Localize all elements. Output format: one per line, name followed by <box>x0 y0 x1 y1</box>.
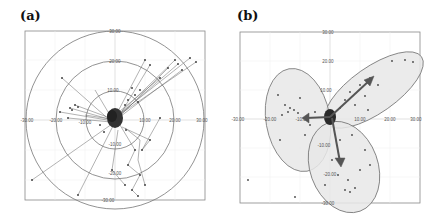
svg-text:-20.00: -20.00 <box>109 171 122 176</box>
svg-text:-10.00: -10.00 <box>79 120 92 125</box>
svg-text:-30.00: -30.00 <box>21 118 34 123</box>
svg-text:-20.00: -20.00 <box>50 118 63 123</box>
svg-text:-30.00: -30.00 <box>232 117 245 122</box>
svg-text:-20.00: -20.00 <box>324 172 337 177</box>
svg-text:10.00: 10.00 <box>107 88 119 93</box>
svg-text:20.00: 20.00 <box>169 118 181 123</box>
svg-text:-20.00: -20.00 <box>264 117 277 122</box>
svg-text:30.00: 30.00 <box>410 117 422 122</box>
svg-text:30.00: 30.00 <box>109 29 121 34</box>
svg-text:30.00: 30.00 <box>196 118 208 123</box>
panel-b-chart: 30.0020.0010.00 -30.00-20.00-10.00 10.00… <box>220 0 443 215</box>
svg-text:20.00: 20.00 <box>109 59 121 64</box>
svg-text:-30.00: -30.00 <box>102 198 115 203</box>
svg-text:-10.00: -10.00 <box>109 142 122 147</box>
svg-text:-10.00: -10.00 <box>296 117 309 122</box>
svg-text:10.00: 10.00 <box>139 118 151 123</box>
svg-text:-30.00: -30.00 <box>322 201 335 206</box>
svg-text:-10.00: -10.00 <box>318 143 331 148</box>
svg-text:20.00: 20.00 <box>384 117 396 122</box>
svg-text:20.00: 20.00 <box>322 59 334 64</box>
svg-text:10.00: 10.00 <box>354 117 366 122</box>
panel-a-chart: 30.0020.0010.00 -30.00-20.00-10.00 10.00… <box>0 0 220 215</box>
svg-text:10.00: 10.00 <box>320 88 332 93</box>
svg-text:30.00: 30.00 <box>322 30 334 35</box>
